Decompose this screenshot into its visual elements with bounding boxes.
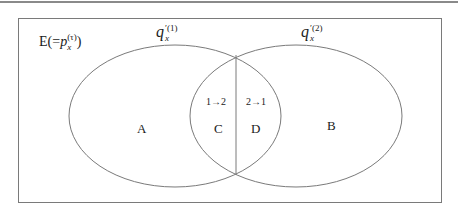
set-2-label-superscript: (2) — [312, 23, 323, 33]
universe-label-prefix: E( — [39, 34, 52, 49]
universe-label: E(=p(τ)x) — [39, 33, 81, 52]
universe-label-subscript: x — [67, 43, 77, 52]
set-2-label-symbol: q — [301, 23, 309, 40]
universe-label-equals: = — [52, 34, 60, 49]
set-1-label-superscript: (1) — [167, 23, 178, 33]
set-1-ellipse — [69, 45, 281, 187]
transition-label-2-to-1: 2→1 — [246, 97, 266, 107]
universe-label-superscript: (τ) — [67, 33, 77, 42]
set-2-label-subscript: x — [310, 34, 322, 43]
set-1-label-symbol: q — [156, 23, 164, 40]
region-label-b: B — [327, 119, 336, 132]
set-2-ellipse — [190, 45, 402, 187]
universe-label-suffix: ) — [77, 34, 82, 49]
set-2-label: q′(2)x — [301, 24, 322, 43]
region-label-d: D — [251, 122, 260, 135]
transition-label-1-to-2: 1→2 — [206, 97, 226, 107]
set-1-label: q′(1)x — [156, 24, 177, 43]
set-1-label-subscript: x — [165, 34, 177, 43]
region-label-c: C — [214, 122, 223, 135]
region-label-a: A — [137, 122, 146, 135]
